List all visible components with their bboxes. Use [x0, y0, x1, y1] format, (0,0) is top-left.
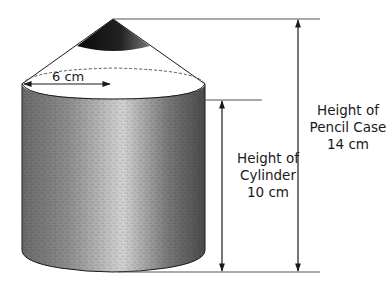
cylinder [22, 84, 205, 272]
cylinder-height-line1: Height of [228, 150, 308, 167]
pencil-case-height-label: Height of Pencil Case 14 cm [305, 102, 391, 153]
cylinder-height-value: 10 cm [228, 184, 308, 201]
pencil-case-height-line1: Height of [305, 102, 391, 119]
radius-label: 6 cm [52, 68, 84, 85]
cylinder-height-line2: Cylinder [228, 167, 308, 184]
pencil-case-height-line2: Pencil Case [305, 119, 391, 136]
pencil-tip [77, 19, 150, 51]
pencil-case-height-value: 14 cm [305, 136, 391, 153]
cylinder-height-label: Height of Cylinder 10 cm [228, 150, 308, 201]
